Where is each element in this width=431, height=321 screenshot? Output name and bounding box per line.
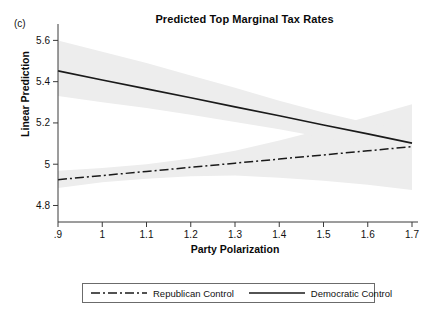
y-tick-label: 5.2	[36, 117, 50, 128]
chart-legend: Republican Control Democratic Control	[82, 283, 375, 303]
y-axis-ticks: 4.855.25.45.6	[36, 35, 58, 211]
x-tick-label: 1.2	[184, 229, 198, 240]
legend-item-democratic-control: Democratic Control	[234, 284, 392, 302]
series-line-1	[58, 71, 412, 143]
legend-swatch-solid-icon	[248, 288, 306, 298]
y-tick-label: 5.6	[36, 35, 50, 46]
x-tick-label: 1.3	[228, 229, 242, 240]
x-tick-label: 1.5	[317, 229, 331, 240]
x-tick-label: 1.4	[272, 229, 286, 240]
x-tick-label: .9	[54, 229, 63, 240]
legend-label-democratic-control: Democratic Control	[306, 288, 392, 299]
legend-label-republican-control: Republican Control	[148, 288, 234, 299]
y-tick-label: 5	[44, 159, 50, 170]
x-tick-label: 1	[99, 229, 105, 240]
x-tick-label: 1.6	[361, 229, 375, 240]
legend-swatch-dash-dot-icon	[90, 288, 148, 298]
x-tick-label: 1.7	[405, 229, 419, 240]
x-axis-ticks: .911.11.21.31.41.51.61.7	[54, 222, 420, 240]
confidence-bands	[58, 40, 412, 190]
x-tick-label: 1.1	[140, 229, 154, 240]
confidence-band-1	[58, 40, 412, 156]
y-tick-label: 5.4	[36, 76, 50, 87]
legend-item-republican-control: Republican Control	[83, 284, 234, 302]
y-tick-label: 4.8	[36, 200, 50, 211]
plot-canvas: 4.855.25.45.6 .911.11.21.31.41.51.61.7	[0, 0, 431, 321]
chart-figure: (c) Predicted Top Marginal Tax Rates Lin…	[0, 0, 431, 321]
